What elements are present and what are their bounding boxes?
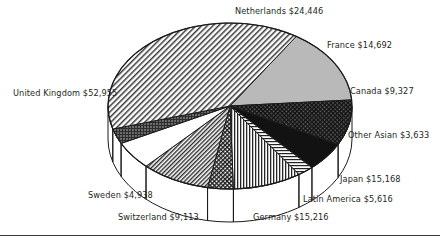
slice-label-france: France $14,692: [327, 40, 392, 50]
slice-label-sweden: Sweden $4,938: [88, 190, 153, 200]
bottom-rule: [0, 235, 440, 236]
slice-label-netherlands: Netherlands $24,446: [235, 6, 323, 16]
pie-top-face: [108, 23, 352, 189]
slice-label-united-kingdom: United Kingdom $52,955: [13, 88, 117, 98]
slice-label-other-asian: Other Asian $3,633: [348, 130, 429, 140]
pie-chart-figure: Netherlands $24,446 France $14,692 Canad…: [0, 0, 440, 238]
slice-label-latin-america: Latin America $5,616: [303, 194, 393, 204]
slice-label-japan: Japan $15,168: [340, 174, 401, 184]
slice-label-canada: Canada $9,327: [350, 86, 414, 96]
slice-label-germany: Germany $15,216: [253, 212, 329, 222]
slice-label-switzerland: Switzerland $9,113: [118, 212, 199, 222]
